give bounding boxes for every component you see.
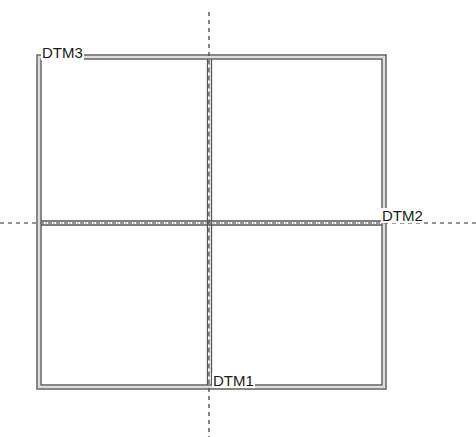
label-dtm3: DTM3	[41, 45, 84, 60]
label-dtm2: DTM2	[381, 208, 424, 223]
label-dtm1: DTM1	[212, 373, 255, 388]
diagram-canvas: DTM3 DTM2 DTM1	[0, 0, 476, 437]
